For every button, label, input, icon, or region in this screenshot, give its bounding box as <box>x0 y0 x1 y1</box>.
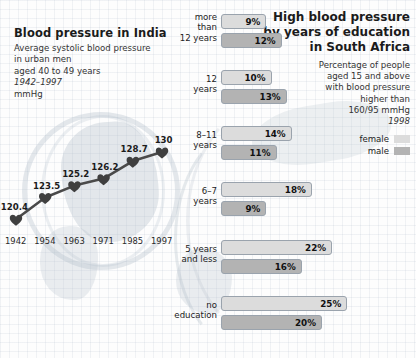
bar-value-label: 9% <box>246 204 266 214</box>
bar-group-label: 8–11 years <box>171 130 217 151</box>
year-axis-label-1963: 1963 <box>63 236 84 246</box>
line-marker-1997 <box>156 148 168 159</box>
line-value-label-1997: 130 <box>155 135 173 145</box>
left-panel: Blood pressure in India Average systolic… <box>0 0 186 358</box>
bar-female: 22% <box>221 240 332 255</box>
year-axis-label-1971: 1971 <box>93 236 114 246</box>
line-marker-1954 <box>39 193 51 204</box>
bar-value-label: 22% <box>305 243 331 253</box>
bar-male: 9% <box>221 201 266 216</box>
line-value-label-1954: 123.5 <box>33 181 60 191</box>
right-panel: High blood pressure by years of educatio… <box>186 0 416 358</box>
bar-male: 20% <box>221 315 322 330</box>
line-chart-svg <box>0 110 186 250</box>
bar-value-label: 13% <box>260 92 286 102</box>
bar-male: 11% <box>221 145 277 160</box>
infographic-root: Blood pressure in India Average systolic… <box>0 0 416 358</box>
line-value-label-1985: 128.7 <box>121 144 148 154</box>
left-panel-title: Blood pressure in India <box>14 26 182 40</box>
bar-male: 13% <box>221 89 287 104</box>
bar-group-label: 12 years <box>171 74 217 95</box>
line-marker-1985 <box>127 157 139 168</box>
bar-chart: more than 12 years9%12%12 years10%13%8–1… <box>186 0 416 358</box>
bar-male: 16% <box>221 259 302 274</box>
line-marker-1963 <box>68 181 80 192</box>
left-subtitle-line-1: Average systolic blood pressure <box>14 43 186 54</box>
line-marker-1942 <box>10 215 22 226</box>
left-subtitle-line-3: aged 40 to 49 years <box>14 66 186 77</box>
bar-group-label: no education <box>171 300 217 321</box>
left-unit: mmHg <box>14 89 186 100</box>
bar-value-label: 11% <box>249 148 275 158</box>
bar-female: 9% <box>221 14 266 29</box>
bar-value-label: 10% <box>244 73 270 83</box>
year-axis-label-1942: 1942 <box>5 236 26 246</box>
year-axis-label-1954: 1954 <box>34 236 55 246</box>
bar-value-label: 20% <box>295 318 321 328</box>
bar-value-label: 9% <box>246 17 266 27</box>
year-axis-label-1997: 1997 <box>151 236 172 246</box>
bar-female: 14% <box>221 126 292 141</box>
bar-female: 25% <box>221 296 347 311</box>
bar-female: 18% <box>221 182 312 197</box>
left-period: 1942–1997 <box>14 77 186 88</box>
bar-female: 10% <box>221 70 272 85</box>
line-value-label-1942: 120.4 <box>1 202 28 212</box>
bar-value-label: 14% <box>265 129 291 139</box>
left-panel-subtitle: Average systolic blood pressure in urban… <box>14 43 186 100</box>
line-marker-1971 <box>97 174 109 185</box>
bar-male: 12% <box>221 33 282 48</box>
year-axis-label-1985: 1985 <box>122 236 143 246</box>
bar-group-label: more than 12 years <box>171 12 217 43</box>
bar-group-label: 5 years and less <box>171 244 217 265</box>
line-chart: 120.4123.5125.2126.2128.7130 19421954196… <box>0 110 186 250</box>
bar-value-label: 16% <box>275 262 301 272</box>
bar-value-label: 12% <box>255 36 281 46</box>
bar-value-label: 25% <box>320 299 346 309</box>
line-value-label-1963: 125.2 <box>62 169 89 179</box>
left-subtitle-line-2: in urban men <box>14 54 186 65</box>
bar-value-label: 18% <box>285 185 311 195</box>
line-value-label-1971: 126.2 <box>91 162 118 172</box>
bar-group-label: 6–7 years <box>171 186 217 207</box>
